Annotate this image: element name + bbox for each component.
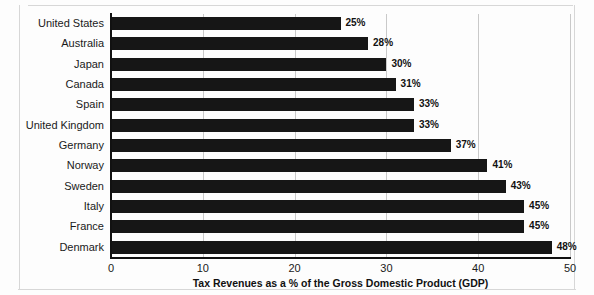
x-axis-spine: [110, 257, 571, 259]
category-axis-labels: United StatesAustraliaJapanCanadaSpainUn…: [0, 14, 104, 258]
bar: [111, 37, 368, 50]
bar-row: 25%: [111, 14, 570, 34]
bar-value-label: 28%: [373, 35, 393, 51]
bar-value-label: 41%: [492, 157, 512, 173]
bar: [111, 241, 552, 254]
category-label: Spain: [0, 95, 110, 114]
bar: [111, 200, 524, 213]
category-label: Norway: [0, 156, 110, 175]
bar-row: 41%: [111, 156, 570, 176]
category-label: Canada: [0, 75, 110, 94]
bar-value-label: 31%: [401, 76, 421, 92]
bar: [111, 98, 414, 111]
plot-area: 25%28%30%31%33%33%37%41%43%45%45%48%: [111, 14, 570, 258]
x-tick-label-50: 50: [564, 262, 576, 274]
bar: [111, 78, 396, 91]
bar-value-label: 33%: [419, 96, 439, 112]
category-label: Italy: [0, 197, 110, 216]
horizontal-bar-chart: United StatesAustraliaJapanCanadaSpainUn…: [0, 0, 594, 295]
x-tick-label-20: 20: [288, 262, 300, 274]
gridline-50: [570, 14, 571, 258]
bar-row: 43%: [111, 177, 570, 197]
bar-row: 45%: [111, 217, 570, 237]
bar-value-label: 48%: [557, 239, 577, 255]
y-axis-spine: [110, 13, 112, 259]
bar: [111, 220, 524, 233]
bar: [111, 180, 506, 193]
category-label: United Kingdom: [0, 116, 110, 135]
category-label: Germany: [0, 136, 110, 155]
bar: [111, 119, 414, 132]
bar-row: 28%: [111, 34, 570, 54]
bar-value-label: 45%: [529, 218, 549, 234]
bar-value-label: 45%: [529, 198, 549, 214]
x-axis-title: Tax Revenues as a % of the Gross Domesti…: [111, 277, 570, 289]
bar-value-label: 43%: [511, 178, 531, 194]
bar-row: 30%: [111, 55, 570, 75]
bar: [111, 139, 451, 152]
bar-value-label: 25%: [346, 15, 366, 31]
x-tick-label-0: 0: [108, 262, 114, 274]
bar-row: 33%: [111, 95, 570, 115]
x-tick-label-10: 10: [197, 262, 209, 274]
bar-row: 31%: [111, 75, 570, 95]
category-label: Japan: [0, 55, 110, 74]
bar-row: 33%: [111, 116, 570, 136]
bar: [111, 159, 487, 172]
x-tick-label-40: 40: [472, 262, 484, 274]
bar-value-label: 30%: [391, 56, 411, 72]
category-label: Australia: [0, 34, 110, 53]
bar-row: 37%: [111, 136, 570, 156]
bar-row: 48%: [111, 238, 570, 258]
scanned-page: United StatesAustraliaJapanCanadaSpainUn…: [0, 0, 594, 295]
category-label: Denmark: [0, 238, 110, 257]
category-label: France: [0, 217, 110, 236]
category-label: Sweden: [0, 177, 110, 196]
bar-row: 45%: [111, 197, 570, 217]
x-tick-label-30: 30: [380, 262, 392, 274]
bar-value-label: 37%: [456, 137, 476, 153]
bar-value-label: 33%: [419, 117, 439, 133]
category-label: United States: [0, 14, 110, 33]
bar: [111, 17, 341, 30]
bar: [111, 58, 386, 71]
